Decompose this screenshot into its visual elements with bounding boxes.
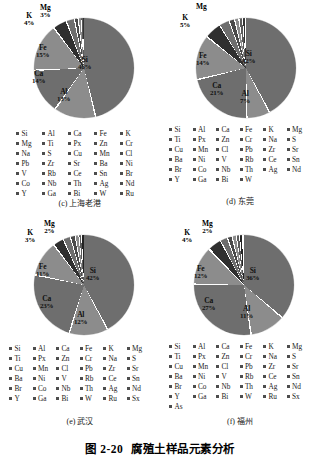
legend-item-sn[interactable]: Sn — [287, 155, 311, 164]
legend-item-s[interactable]: S — [287, 352, 311, 361]
legend-item-nd[interactable]: Nd — [120, 179, 146, 188]
legend-item-ti[interactable]: Ti — [169, 135, 193, 144]
legend-item-ba[interactable]: Ba — [94, 159, 120, 168]
legend-item-ca[interactable]: Ca — [68, 129, 94, 138]
legend-item-s[interactable]: S — [287, 135, 311, 144]
legend-item-ba[interactable]: Ba — [169, 372, 193, 381]
legend-item-zn[interactable]: Zn — [56, 354, 80, 363]
legend-item-sn[interactable]: Sn — [127, 374, 151, 383]
legend-item-co[interactable]: Co — [193, 382, 217, 391]
legend-item-ce[interactable]: Ce — [263, 155, 287, 164]
legend-item-cr[interactable]: Cr — [80, 354, 104, 363]
legend-item-na[interactable]: Na — [263, 135, 287, 144]
legend-item-cr[interactable]: Cr — [120, 139, 146, 148]
legend-item-pb[interactable]: Pb — [240, 362, 264, 371]
legend-item-ca[interactable]: Ca — [216, 342, 240, 351]
legend-item-si[interactable]: Si — [9, 344, 33, 353]
legend-item-bi[interactable]: Bi — [56, 394, 80, 403]
legend-item-al[interactable]: Al — [193, 125, 217, 134]
legend-item-s[interactable]: S — [42, 149, 68, 158]
legend-item-px[interactable]: Px — [193, 135, 217, 144]
legend-item-ag[interactable]: Ag — [94, 179, 120, 188]
legend-item-v[interactable]: V — [56, 374, 80, 383]
legend-item-mg[interactable]: Mg — [127, 344, 151, 353]
legend-item-al[interactable]: Al — [42, 129, 68, 138]
legend-item-th[interactable]: Th — [80, 384, 104, 393]
legend-item-v[interactable]: V — [216, 372, 240, 381]
legend-item-pb[interactable]: Pb — [240, 145, 264, 154]
legend-item-ce[interactable]: Ce — [263, 372, 287, 381]
legend-item-ag[interactable]: Ag — [263, 165, 287, 174]
legend-item-zn[interactable]: Zn — [216, 135, 240, 144]
legend-item-ca[interactable]: Ca — [216, 125, 240, 134]
legend-item-ga[interactable]: Ga — [193, 175, 217, 184]
legend-item-zr[interactable]: Zr — [103, 364, 127, 373]
legend-item-zr[interactable]: Zr — [263, 145, 287, 154]
legend-item-ag[interactable]: Ag — [263, 382, 287, 391]
legend-item-cr[interactable]: Cr — [240, 352, 264, 361]
legend-item-fe[interactable]: Fe — [240, 342, 264, 351]
legend-item-rb[interactable]: Rb — [80, 374, 104, 383]
legend-item-px[interactable]: Px — [68, 139, 94, 148]
legend-item-nb[interactable]: Nb — [56, 384, 80, 393]
legend-item-ga[interactable]: Ga — [33, 394, 57, 403]
legend-item-y[interactable]: Y — [169, 392, 193, 401]
legend-item-ag[interactable]: Ag — [103, 384, 127, 393]
legend-item-ti[interactable]: Ti — [42, 139, 68, 148]
legend-item-nb[interactable]: Nb — [42, 179, 68, 188]
legend-item-al[interactable]: Al — [33, 344, 57, 353]
legend-item-mn[interactable]: Mn — [33, 364, 57, 373]
legend-item-px[interactable]: Px — [33, 354, 57, 363]
legend-item-k[interactable]: K — [263, 125, 287, 134]
legend-item-co[interactable]: Co — [33, 384, 57, 393]
legend-item-th[interactable]: Th — [240, 382, 264, 391]
legend-item-rb[interactable]: Rb — [240, 155, 264, 164]
legend-item-br[interactable]: Br — [120, 169, 146, 178]
legend-item-w[interactable]: W — [240, 175, 264, 184]
legend-item-cr[interactable]: Cr — [240, 135, 264, 144]
legend-item-mg[interactable]: Mg — [287, 342, 311, 351]
legend-item-sr[interactable]: Sr — [287, 145, 311, 154]
legend-item-al[interactable]: Al — [193, 342, 217, 351]
legend-item-s[interactable]: S — [127, 354, 151, 363]
legend-item-v[interactable]: V — [16, 169, 42, 178]
legend-item-co[interactable]: Co — [193, 165, 217, 174]
legend-item-zn[interactable]: Zn — [216, 352, 240, 361]
legend-item-nb[interactable]: Nb — [216, 382, 240, 391]
legend-item-cu[interactable]: Cu — [169, 362, 193, 371]
legend-item-cl[interactable]: Cl — [216, 145, 240, 154]
legend-item-k[interactable]: K — [103, 344, 127, 353]
legend-item-k[interactable]: K — [263, 342, 287, 351]
legend-item-rb[interactable]: Rb — [42, 169, 68, 178]
legend-item-ru[interactable]: Ru — [103, 394, 127, 403]
legend-item-sn[interactable]: Sn — [287, 372, 311, 381]
legend-item-cu[interactable]: Cu — [68, 149, 94, 158]
legend-item-si[interactable]: Si — [169, 342, 193, 351]
legend-item-na[interactable]: Na — [263, 352, 287, 361]
legend-item-sr[interactable]: Sr — [127, 364, 151, 373]
legend-item-ca[interactable]: Ca — [56, 344, 80, 353]
legend-item-ni[interactable]: Ni — [193, 155, 217, 164]
legend-item-nd[interactable]: Nd — [287, 165, 311, 174]
legend-item-y[interactable]: Y — [9, 394, 33, 403]
legend-item-mn[interactable]: Mn — [94, 149, 120, 158]
legend-item-w[interactable]: W — [80, 394, 104, 403]
legend-item-rb[interactable]: Rb — [240, 372, 264, 381]
legend-item-br[interactable]: Br — [9, 384, 33, 393]
legend-item-th[interactable]: Th — [68, 179, 94, 188]
legend-item-sx[interactable]: Sx — [287, 392, 311, 401]
legend-item-ti[interactable]: Ti — [9, 354, 33, 363]
legend-item-sr[interactable]: Sr — [287, 362, 311, 371]
legend-item-cl[interactable]: Cl — [216, 362, 240, 371]
legend-item-br[interactable]: Br — [169, 382, 193, 391]
legend-item-mn[interactable]: Mn — [193, 145, 217, 154]
legend-item-sn[interactable]: Sn — [94, 169, 120, 178]
legend-item-na[interactable]: Na — [16, 149, 42, 158]
legend-item-nd[interactable]: Nd — [287, 382, 311, 391]
legend-item-cu[interactable]: Cu — [9, 364, 33, 373]
legend-item-na[interactable]: Na — [103, 354, 127, 363]
legend-item-ni[interactable]: Ni — [120, 159, 146, 168]
legend-item-cl[interactable]: Cl — [120, 149, 146, 158]
legend-item-v[interactable]: V — [216, 155, 240, 164]
legend-item-ce[interactable]: Ce — [68, 169, 94, 178]
